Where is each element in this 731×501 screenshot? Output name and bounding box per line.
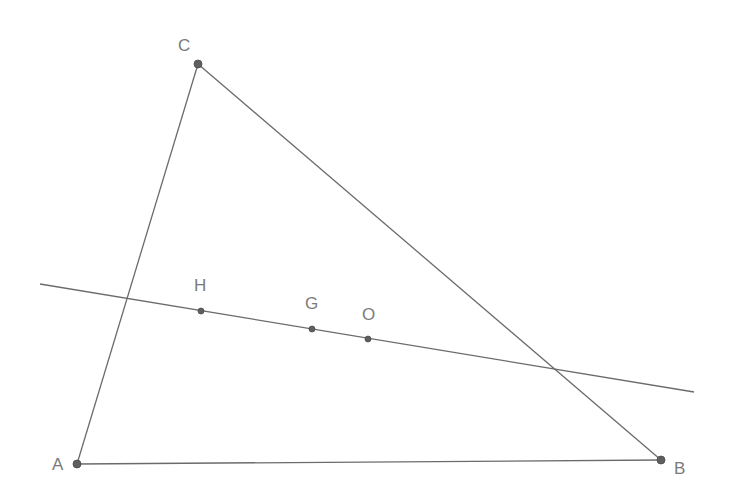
triangle-vertices: ABC xyxy=(52,36,685,478)
center-label-O: O xyxy=(362,305,375,324)
vertex-label-B: B xyxy=(674,459,685,478)
vertex-label-A: A xyxy=(52,455,64,474)
center-label-G: G xyxy=(305,294,318,313)
vertex-point-C xyxy=(194,60,202,68)
center-point-G xyxy=(309,326,315,332)
euler-line-points: HGO xyxy=(194,276,375,342)
diagram-canvas: ABC HGO xyxy=(0,0,731,501)
side-CA xyxy=(77,64,198,464)
vertex-point-B xyxy=(657,456,665,464)
center-label-H: H xyxy=(194,276,206,295)
triangle-sides xyxy=(77,64,661,464)
vertex-label-C: C xyxy=(178,36,190,55)
center-point-H xyxy=(198,308,204,314)
vertex-point-A xyxy=(73,460,81,468)
side-BC xyxy=(198,64,661,460)
side-AB xyxy=(77,460,661,464)
center-point-O xyxy=(365,336,371,342)
